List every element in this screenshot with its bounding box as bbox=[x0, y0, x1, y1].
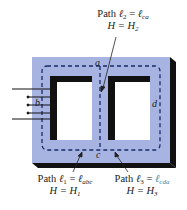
core-depth-right bbox=[170, 57, 176, 168]
point-c-label: c bbox=[96, 149, 100, 160]
point-a-label: a bbox=[95, 57, 100, 68]
path2-field: H = H2 bbox=[88, 20, 158, 32]
path3-field: H = H3 bbox=[106, 185, 178, 197]
path3-equation: Path ℓ3 = ℓcda bbox=[106, 173, 178, 185]
core-depth-bottom bbox=[32, 163, 176, 168]
path2-label: Path ℓ2 = ℓca H = H2 bbox=[88, 8, 158, 32]
path1-equation: Path ℓ1 = ℓabc bbox=[30, 173, 100, 185]
point-d-label: d bbox=[152, 98, 157, 109]
path1-label: Path ℓ1 = ℓabc H = H1 bbox=[30, 173, 100, 197]
path1-field: H = H1 bbox=[30, 185, 100, 197]
left-window bbox=[57, 82, 92, 140]
path3-label: Path ℓ3 = ℓcda H = H3 bbox=[106, 173, 178, 197]
right-window bbox=[115, 82, 150, 140]
point-b-label: b bbox=[35, 97, 40, 108]
path2-equation: Path ℓ2 = ℓca bbox=[88, 8, 158, 20]
